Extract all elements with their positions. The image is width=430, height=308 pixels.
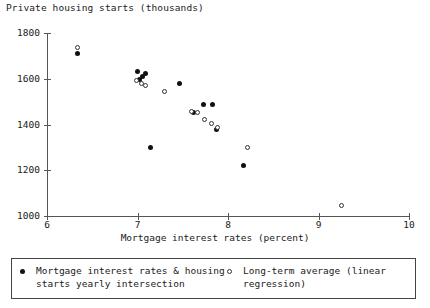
data-point-actual — [201, 102, 206, 107]
open-circle-icon — [227, 269, 232, 274]
data-point-actual — [241, 163, 246, 168]
legend-entry-regression: Long-term average (linear regression) — [227, 265, 417, 290]
y-axis-tick-label: 1600 — [6, 74, 40, 84]
data-point-regression — [162, 89, 167, 94]
y-axis-tick — [44, 170, 51, 171]
legend: Mortgage interest rates & housing starts… — [11, 258, 416, 299]
y-axis-tick — [44, 125, 51, 126]
data-point-regression — [195, 110, 200, 115]
y-axis-tick-label: 1000 — [6, 211, 40, 221]
data-point-actual — [75, 51, 80, 56]
data-point-regression — [209, 121, 214, 126]
data-point-regression — [75, 45, 80, 50]
legend-label-actual: Mortgage interest rates & housing starts… — [36, 265, 235, 290]
data-point-actual — [177, 81, 182, 86]
data-point-regression — [143, 83, 148, 88]
x-axis-tick-label: 10 — [399, 220, 419, 230]
legend-entry-actual: Mortgage interest rates & housing starts… — [20, 265, 235, 290]
data-point-regression — [202, 117, 207, 122]
x-axis-label: Mortgage interest rates (percent) — [0, 232, 430, 243]
data-point-regression — [339, 203, 344, 208]
legend-label-regression: Long-term average (linear regression) — [243, 265, 417, 290]
y-axis-tick-label: 1400 — [6, 120, 40, 130]
y-axis-tick — [44, 79, 51, 80]
x-axis-tick-label: 6 — [37, 220, 57, 230]
y-axis-tick — [44, 33, 51, 34]
y-axis-tick-label: 1800 — [6, 28, 40, 38]
data-point-actual — [143, 71, 148, 76]
data-point-actual — [210, 102, 215, 107]
x-axis-tick-label: 8 — [218, 220, 238, 230]
data-point-actual — [148, 145, 153, 150]
y-axis-tick-label: 1200 — [6, 165, 40, 175]
filled-circle-icon — [20, 269, 25, 274]
chart-figure: Private housing starts (thousands) 10001… — [0, 0, 430, 308]
plot-area: 10001200140016001800 678910 — [0, 0, 430, 240]
data-point-actual — [135, 69, 140, 74]
x-axis-tick-label: 7 — [128, 220, 148, 230]
x-axis-tick-label: 9 — [309, 220, 329, 230]
data-point-regression — [215, 125, 220, 130]
data-point-regression — [245, 145, 250, 150]
